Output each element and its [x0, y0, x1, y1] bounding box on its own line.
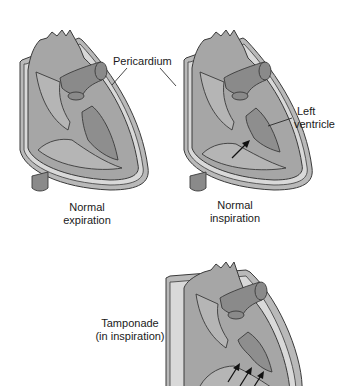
caption-line1: Normal [200, 199, 270, 212]
caption-line1: Normal [52, 201, 122, 214]
pericardium-leader-left [112, 68, 127, 85]
caption-normal-expiration: Normal expiration [52, 201, 122, 227]
caption-line1: Tamponade [80, 317, 180, 330]
pericardium-label: Pericardium [111, 55, 174, 68]
left-ventricle-label-line2: ventricle [294, 118, 335, 131]
caption-line2: (in inspiration) [80, 330, 180, 343]
caption-tamponade: Tamponade (in inspiration) [80, 317, 180, 343]
caption-normal-inspiration: Normal inspiration [200, 199, 270, 225]
pericardium-leader-right [160, 68, 176, 86]
caption-line2: expiration [52, 214, 122, 227]
left-ventricle-label: Left ventricle [294, 105, 335, 131]
left-ventricle-leader [268, 118, 292, 126]
left-ventricle-label-line1: Left [294, 105, 335, 118]
caption-line2: inspiration [200, 212, 270, 225]
